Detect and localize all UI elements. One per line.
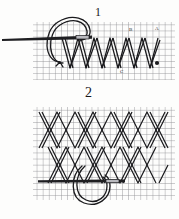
- diagram-canvas: [0, 0, 179, 219]
- figure-1-end-point: [155, 61, 159, 65]
- stitch-diagram-page: 1 2 B A C: [0, 0, 179, 219]
- figure-1-marker-a: A: [155, 26, 159, 31]
- figure-2-group: [33, 107, 175, 204]
- figure-1-marker-b: B: [129, 27, 132, 32]
- figure-1-needle-eye: [76, 35, 89, 39]
- figure-2-caption: 2: [85, 86, 92, 100]
- figure-1-caption: 1: [95, 6, 101, 18]
- figure-1-marker-c: C: [120, 69, 123, 74]
- figure-1-group: [2, 17, 175, 80]
- figure-2-needle-eye: [106, 179, 119, 182]
